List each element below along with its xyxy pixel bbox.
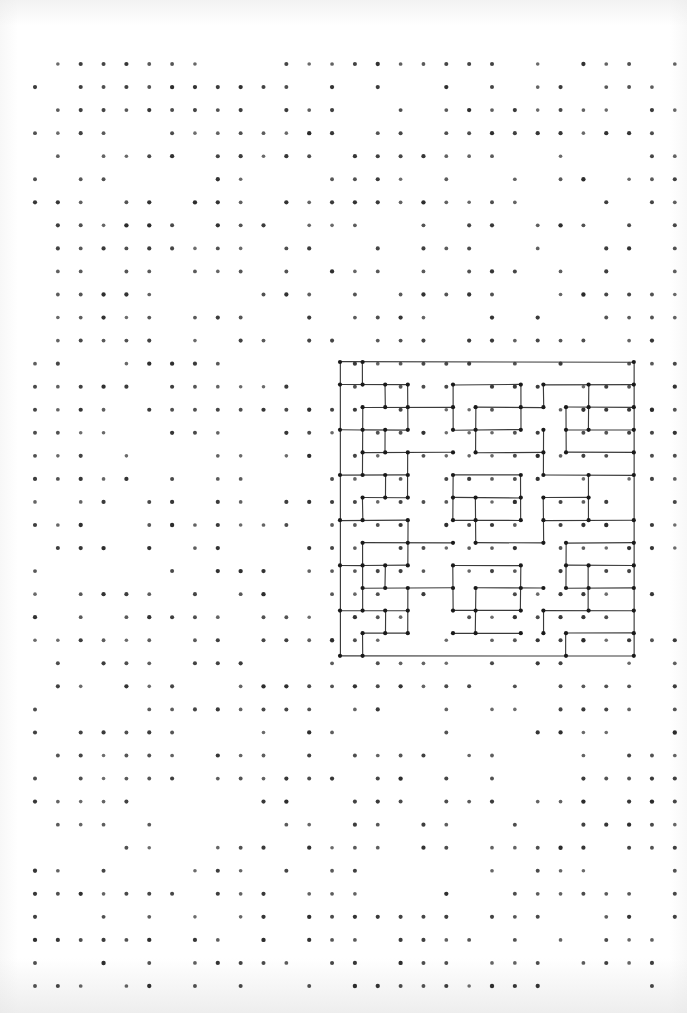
maze-node <box>474 405 478 409</box>
maze-node <box>587 428 591 432</box>
maze-node <box>406 609 410 613</box>
maze-node <box>451 541 455 545</box>
maze-node <box>632 586 636 590</box>
maze-node <box>632 450 636 454</box>
maze-node <box>541 496 545 500</box>
maze-node <box>406 496 410 500</box>
maze-node <box>361 383 365 387</box>
maze-node <box>541 609 545 613</box>
maze-node <box>451 428 455 432</box>
maze-node <box>564 428 568 432</box>
maze-node <box>338 383 342 387</box>
maze-segment-horizontal <box>453 430 520 431</box>
maze-node <box>383 428 387 432</box>
maze-node <box>406 473 410 477</box>
maze-node <box>519 518 523 522</box>
maze-node <box>541 518 545 522</box>
maze-node <box>587 496 591 500</box>
maze-node <box>451 383 455 387</box>
maze-segment-horizontal <box>340 520 408 521</box>
maze-node <box>541 631 545 635</box>
maze-node <box>361 609 365 613</box>
maze-node <box>383 383 387 387</box>
maze-node <box>338 609 342 613</box>
maze-node <box>587 383 591 387</box>
maze-node <box>338 428 342 432</box>
maze-node <box>361 541 365 545</box>
maze-node <box>541 405 545 409</box>
maze-node <box>474 518 478 522</box>
maze-node <box>474 450 478 454</box>
maze-node <box>406 563 410 567</box>
maze-node <box>338 563 342 567</box>
maze-node <box>519 609 523 613</box>
maze-node <box>587 405 591 409</box>
maze-node <box>564 563 568 567</box>
maze-segment-horizontal <box>340 362 634 363</box>
maze-node <box>541 541 545 545</box>
maze-node <box>474 428 478 432</box>
maze-node <box>451 631 455 635</box>
maze-node <box>564 631 568 635</box>
maze-node <box>383 450 387 454</box>
maze-node <box>632 563 636 567</box>
maze-node <box>406 541 410 545</box>
maze-node <box>383 609 387 613</box>
maze-node <box>541 586 545 590</box>
maze-segment-horizontal <box>453 497 521 498</box>
maze-node <box>383 405 387 409</box>
maze-node <box>519 496 523 500</box>
maze-node <box>632 631 636 635</box>
maze-node <box>361 360 365 364</box>
maze-node <box>338 473 342 477</box>
maze-node <box>587 563 591 567</box>
maze-node <box>383 496 387 500</box>
maze-node <box>587 586 591 590</box>
maze-node <box>632 428 636 432</box>
maze-node <box>383 631 387 635</box>
maze-node <box>361 473 365 477</box>
maze-node <box>632 518 636 522</box>
maze-node <box>474 609 478 613</box>
maze-node <box>338 360 342 364</box>
maze-node <box>632 541 636 545</box>
maze-node <box>474 496 478 500</box>
maze-node <box>383 473 387 477</box>
maze-node <box>474 586 478 590</box>
maze-node <box>632 405 636 409</box>
maze-node <box>541 428 545 432</box>
maze-node <box>587 609 591 613</box>
maze-node <box>451 586 455 590</box>
maze-node <box>519 405 523 409</box>
maze-node <box>632 654 636 658</box>
maze-node <box>564 654 568 658</box>
maze-node <box>451 496 455 500</box>
maze-node <box>564 450 568 454</box>
maze-node <box>541 450 545 454</box>
maze-node <box>519 563 523 567</box>
maze-node <box>519 428 523 432</box>
maze-node <box>361 428 365 432</box>
maze-node <box>474 541 478 545</box>
maze-node <box>451 473 455 477</box>
maze-node <box>632 609 636 613</box>
maze-node <box>383 563 387 567</box>
maze-node <box>383 586 387 590</box>
maze-node <box>519 631 523 635</box>
maze-node <box>361 496 365 500</box>
maze-node <box>361 518 365 522</box>
maze-node <box>519 586 523 590</box>
maze-node <box>406 383 410 387</box>
maze-node <box>406 631 410 635</box>
maze-node <box>361 450 365 454</box>
maze-node <box>564 405 568 409</box>
maze-node <box>406 450 410 454</box>
maze-node <box>338 654 342 658</box>
maze-node <box>451 450 455 454</box>
maze-node <box>632 473 636 477</box>
maze-node <box>632 383 636 387</box>
maze-node <box>587 518 591 522</box>
maze-segment-horizontal <box>453 384 521 385</box>
maze-node <box>361 586 365 590</box>
maze-node <box>406 518 410 522</box>
